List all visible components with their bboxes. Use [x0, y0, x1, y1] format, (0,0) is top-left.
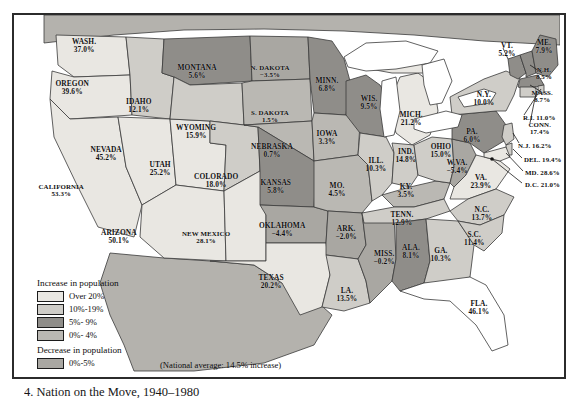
callout-name: N.H. — [536, 66, 552, 74]
state-percent: 7.9% — [536, 47, 553, 55]
callout-label-mass: MASS.8.7% — [532, 89, 553, 104]
state-percent: 39.6% — [56, 88, 89, 96]
state-percent: −3.5% — [251, 71, 290, 79]
state-label-wyoming: WYOMING15.9% — [176, 124, 216, 140]
state-percent: 50.1% — [101, 237, 137, 245]
state-percent: 3.5% — [398, 191, 415, 199]
legend-row: Over 20% — [37, 291, 177, 303]
callout-percent: 16.2% — [530, 142, 551, 149]
state-label-oregon: OREGON39.6% — [56, 80, 89, 96]
state-percent: 12.9% — [391, 219, 414, 227]
state-label-w-va: W.VA.−5.4% — [447, 159, 468, 175]
state-label-n-y: N.Y.10.0% — [474, 91, 495, 107]
state-percent: 53.3% — [39, 190, 84, 198]
state-label-california: CALIFORNIA53.3% — [39, 183, 84, 198]
state-label-mo: MO.4.5% — [329, 182, 346, 198]
state-label-s-dakota: S. DAKOTA1.5% — [251, 109, 289, 124]
state-percent: 3.3% — [317, 138, 338, 146]
state-label-new-mexico: NEW MEXICO28.1% — [182, 230, 230, 245]
state-percent: 23.9% — [471, 182, 492, 190]
legend-row: 10%-19% — [37, 304, 177, 316]
state-percent: 25.2% — [150, 169, 171, 177]
state-label-minn: MINN.6.8% — [316, 77, 339, 93]
state-percent: 1.5% — [251, 116, 289, 124]
state-percent: 6.0% — [464, 136, 481, 144]
callout-name: MD. — [525, 169, 539, 176]
state-label-colorado: COLORADO18.0% — [194, 173, 238, 189]
state-label-idaho: IDAHO12.1% — [126, 98, 152, 114]
state-label-n-dakota: N. DAKOTA−3.5% — [251, 64, 290, 79]
state-label-me: ME.7.9% — [536, 39, 553, 55]
state-percent: 10.3% — [431, 255, 452, 263]
legend-label: Over 20% — [69, 291, 104, 301]
callout-percent: 28.6% — [539, 169, 560, 176]
state-percent: −4.4% — [259, 230, 305, 238]
state-label-n-c: N.C.13.7% — [472, 206, 493, 222]
state-percent: −0.2% — [374, 258, 395, 266]
state-percent: 10.3% — [366, 165, 387, 173]
state-label-la: LA.13.5% — [337, 287, 358, 303]
state-percent: 37.0% — [72, 46, 96, 54]
state-label-kansas: KANSAS5.8% — [261, 179, 292, 195]
state-label-arizona: ARIZONA50.1% — [101, 229, 137, 245]
callout-label-del: DEL. 19.4% — [524, 156, 562, 164]
legend-swatch — [37, 291, 64, 303]
callout-name: D.C. — [525, 181, 539, 188]
legend-label: 0%-5% — [69, 358, 95, 368]
state-percent: 13.7% — [472, 214, 493, 222]
legend-row: 0%-5% — [37, 358, 177, 370]
state-name: CALIFORNIA — [39, 183, 84, 191]
state-label-nebraska: NEBRASKA0.7% — [251, 143, 293, 159]
state-label-s-c: S.C.11.4% — [464, 231, 484, 247]
callout-percent: 17.4% — [529, 128, 552, 136]
state-percent: 28.1% — [182, 237, 230, 245]
legend-swatch — [37, 317, 64, 329]
state-percent: 45.2% — [91, 154, 122, 162]
legend-swatch — [37, 330, 64, 342]
state-percent: 4.5% — [329, 190, 346, 198]
state-label-nevada: NEVADA45.2% — [91, 146, 122, 162]
legend-row: 5%- 9% — [37, 317, 177, 329]
legend-increase-title: Increase in population — [37, 277, 177, 289]
legend-swatch — [37, 304, 64, 316]
callout-label-conn: CONN.17.4% — [529, 121, 552, 136]
state-percent: 13.5% — [337, 295, 358, 303]
state-percent: 5.2% — [499, 50, 516, 58]
callout-name: MASS. — [532, 89, 553, 97]
state-label-va: VA.23.9% — [471, 174, 492, 190]
state-name: N. DAKOTA — [251, 64, 290, 72]
legend-decrease-title: Decrease in population — [37, 344, 177, 356]
callout-label-d-c: D.C. 21.0% — [525, 181, 560, 189]
state-percent: 0.7% — [251, 151, 293, 159]
state-label-wis: WIS.9.5% — [361, 95, 378, 111]
callout-percent: 21.0% — [539, 181, 560, 188]
figure-caption: 4. Nation on the Move, 1940–1980 — [24, 385, 564, 398]
state-label-tenn: TENN.12.9% — [391, 211, 414, 227]
state-label-ga: GA.10.3% — [431, 247, 452, 263]
legend-decrease-rows: 0%-5% — [37, 358, 177, 370]
state-percent: 21.2% — [400, 119, 423, 127]
callout-percent: 8.7% — [532, 96, 553, 104]
state-label-ky: KY.3.5% — [398, 183, 415, 199]
state-percent: −5.4% — [447, 167, 468, 175]
state-percent: 6.8% — [316, 85, 339, 93]
state-label-utah: UTAH25.2% — [150, 161, 171, 177]
state-percent: 18.0% — [194, 181, 238, 189]
map-frame: WASH.37.0%OREGON39.6%CALIFORNIA53.3%IDAH… — [12, 13, 566, 379]
national-average-note: (National average: 14.5% increase) — [160, 360, 281, 370]
state-percent: 9.5% — [361, 103, 378, 111]
population-change-map-figure: WASH.37.0%OREGON39.6%CALIFORNIA53.3%IDAH… — [0, 0, 574, 398]
callout-label-n-h: N.H.8.5% — [536, 66, 552, 81]
callout-percent: 19.4% — [540, 156, 561, 163]
dc-marker-dot — [490, 157, 494, 161]
state-label-miss: MISS.−0.2% — [374, 250, 395, 266]
callout-percent: 8.5% — [536, 73, 552, 81]
callout-label-n-j: N.J. 16.2% — [518, 142, 552, 150]
state-label-ill: ILL.10.3% — [366, 157, 387, 173]
callout-name: N.J. — [518, 142, 530, 149]
state-percent: 5.8% — [261, 187, 292, 195]
legend-swatch — [37, 358, 64, 370]
state-percent: 5.6% — [178, 72, 217, 80]
state-label-ind: IND.14.8% — [396, 148, 417, 164]
callout-label-md: MD. 28.6% — [525, 169, 560, 177]
